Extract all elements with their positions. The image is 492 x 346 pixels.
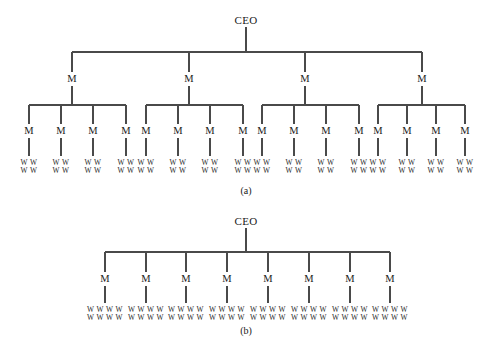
worker-line-2: W W [169,166,186,175]
diagram-a-level2-manager-6: M [172,126,183,137]
worker-line-2: W W [137,166,154,175]
diagram-a-level2-manager-12: M [353,126,364,137]
diagram-a-worker-group-10: W WW W [285,159,302,176]
diagram-b-worker-group-1: W W W WW W W W [87,306,123,323]
diagram-b-ceo-node: CEO [234,216,259,227]
diagram-a-worker-group-7: W WW W [201,159,218,176]
worker-line-2: W W [317,166,334,175]
diagram-a-worker-group-2: W WW W [52,159,69,176]
worker-line-2: W W [117,166,134,175]
diagram-a-level2-manager-2: M [55,126,66,137]
diagram-a-level2-manager-15: M [430,126,441,137]
worker-line-2: W W W W [372,313,408,322]
diagram-a-worker-group-15: W WW W [427,159,444,176]
diagram-a-level2-manager-8: M [237,126,248,137]
diagram-b-worker-group-7: W W W WW W W W [332,306,368,323]
diagram-b-caption: (b) [240,325,252,336]
diagram-a-level2-manager-10: M [288,126,299,137]
diagram-a-caption: (a) [240,185,251,196]
diagram-a-level2-manager-14: M [401,126,412,137]
worker-line-2: W W W W [291,313,327,322]
diagram-b-manager-8: M [384,274,395,285]
diagram-a-worker-group-4: W WW W [117,159,134,176]
diagram-a-level2-manager-13: M [372,126,383,137]
diagram-a-worker-group-6: W WW W [169,159,186,176]
diagram-a-level2-manager-11: M [320,126,331,137]
diagram-b-manager-7: M [344,274,355,285]
worker-line-2: W W [350,166,367,175]
diagram-a-worker-group-5: W WW W [137,159,154,176]
worker-line-2: W W [427,166,444,175]
diagram-a-worker-group-1: W WW W [20,159,37,176]
diagram-a-worker-group-16: W WW W [456,159,473,176]
diagram-b-manager-5: M [262,274,273,285]
worker-line-2: W W [234,166,251,175]
worker-line-2: W W [20,166,37,175]
worker-line-2: W W [253,166,270,175]
diagram-a-level1-manager-4: M [416,74,427,85]
diagram-a-worker-group-14: W WW W [398,159,415,176]
diagram-a-level2-manager-3: M [87,126,98,137]
diagram-b-worker-group-4: W W W WW W W W [209,306,245,323]
diagram-a-level2-manager-7: M [204,126,215,137]
diagram-a-level2-manager-16: M [459,126,470,137]
diagram-a-worker-group-13: W WW W [369,159,386,176]
diagram-b-worker-group-2: W W W WW W W W [128,306,164,323]
diagram-a-worker-group-9: W WW W [253,159,270,176]
worker-line-2: W W W W [209,313,245,322]
diagram-a-level2-manager-5: M [140,126,151,137]
diagram-a-level1-manager-2: M [183,74,194,85]
diagram-a-worker-group-11: W WW W [317,159,334,176]
diagram-b-worker-group-6: W W W WW W W W [291,306,327,323]
diagram-b-manager-4: M [221,274,232,285]
worker-line-2: W W [201,166,218,175]
diagram-a-level1-manager-3: M [299,74,310,85]
diagram-a-level2-manager-9: M [256,126,267,137]
diagram-b-worker-group-8: W W W WW W W W [372,306,408,323]
diagram-a-level1-manager-1: M [66,74,77,85]
diagram-b-manager-3: M [180,274,191,285]
worker-line-2: W W W W [128,313,164,322]
diagram-b-manager-2: M [140,274,151,285]
diagram-a-level2-manager-4: M [120,126,131,137]
diagram-b-worker-group-5: W W W WW W W W [250,306,286,323]
worker-line-2: W W [456,166,473,175]
worker-line-2: W W W W [332,313,368,322]
worker-line-2: W W [84,166,101,175]
diagram-a-worker-group-3: W WW W [84,159,101,176]
worker-line-2: W W W W [87,313,123,322]
diagram-b-worker-group-3: W W W WW W W W [168,306,204,323]
worker-line-2: W W [52,166,69,175]
worker-line-2: W W [369,166,386,175]
worker-line-2: W W [398,166,415,175]
worker-line-2: W W W W [250,313,286,322]
diagram-b-manager-6: M [303,274,314,285]
figure-root: CEO M M M M M M M M M M M M M M M M M M … [0,0,492,346]
diagram-a-worker-group-12: W WW W [350,159,367,176]
worker-line-2: W W W W [168,313,204,322]
diagram-b-manager-1: M [99,274,110,285]
diagram-a-level2-manager-1: M [23,126,34,137]
worker-line-2: W W [285,166,302,175]
diagram-a-worker-group-8: W WW W [234,159,251,176]
diagram-a-ceo-node: CEO [234,15,259,26]
